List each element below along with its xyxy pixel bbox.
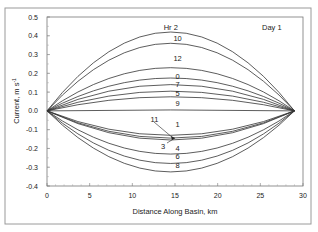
- curve-label: 10: [173, 34, 181, 43]
- y-tick-label: -0.2: [26, 145, 38, 152]
- chart-canvas: 0.50.40.30.20.10.0-0.1-0.2-0.3-0.4 05101…: [0, 0, 318, 232]
- curve-label: 1: [175, 120, 179, 129]
- y-axis-title: Current, m s-1: [11, 78, 21, 124]
- curve-label: Hr 2: [164, 23, 178, 32]
- y-tick-label: 0.1: [28, 89, 38, 96]
- x-tick-label: 25: [256, 192, 264, 199]
- curve-label: 8: [175, 161, 179, 170]
- curve-label: 9: [175, 99, 179, 108]
- x-tick-label: 5: [88, 192, 92, 199]
- y-tick-label: -0.4: [26, 183, 38, 190]
- x-tick-label: 20: [214, 192, 222, 199]
- curve-label: 5: [175, 89, 179, 98]
- x-axis-title: Distance Along Basin, km: [132, 207, 217, 216]
- day-annotation: Day 1: [262, 23, 282, 32]
- x-tick-label: 10: [128, 192, 136, 199]
- x-tick-label: 15: [171, 192, 179, 199]
- y-tick-label: 0.5: [28, 14, 38, 21]
- y-tick-label: -0.3: [26, 164, 38, 171]
- curve-label: 12: [173, 54, 181, 63]
- y-tick-label: 0.0: [28, 107, 38, 114]
- x-tick-label: 30: [299, 192, 307, 199]
- y-tick-label: 0.3: [28, 51, 38, 58]
- y-tick-label: 0.4: [28, 32, 38, 39]
- chart: 0.50.40.30.20.10.0-0.1-0.2-0.3-0.4 05101…: [0, 0, 318, 232]
- curve-label: 3: [161, 142, 165, 151]
- y-tick-label: 0.2: [28, 70, 38, 77]
- y-tick-label: -0.1: [26, 126, 38, 133]
- x-tick-label: 0: [45, 192, 49, 199]
